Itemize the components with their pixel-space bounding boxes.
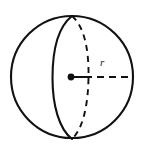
sphere-diagram: r: [0, 0, 146, 152]
sphere-center-point-dot: [68, 74, 75, 81]
sphere-drawing-canvas: [0, 0, 146, 152]
radius-label: r: [100, 57, 104, 68]
